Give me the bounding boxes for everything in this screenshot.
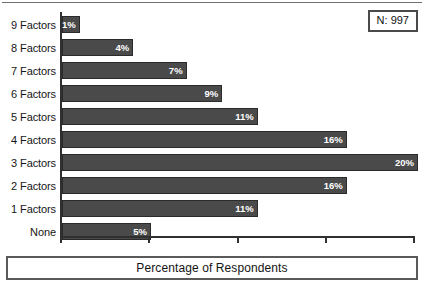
bar-row: 4 Factors16% (0, 129, 424, 151)
bar: 20% (62, 154, 418, 171)
x-axis-tick (60, 236, 62, 243)
bar-row: 8 Factors4% (0, 37, 424, 59)
bar-row: 5 Factors11% (0, 106, 424, 128)
category-label: None (0, 221, 56, 243)
x-axis-title-box: Percentage of Respondents (6, 256, 418, 280)
bar: 7% (62, 62, 187, 79)
bar-value-label: 11% (235, 204, 257, 214)
bar-value-label: 20% (395, 158, 417, 168)
bar: 16% (62, 177, 347, 194)
bar-track: 5% (62, 221, 418, 243)
bar-track: 16% (62, 129, 418, 151)
bar-track: 16% (62, 175, 418, 197)
bar-track: 4% (62, 37, 418, 59)
category-label: 3 Factors (0, 152, 56, 174)
category-label: 9 Factors (0, 14, 56, 36)
bar-value-label: 1% (62, 20, 79, 30)
bar-value-label: 5% (133, 227, 150, 237)
category-label: 1 Factors (0, 198, 56, 220)
bar-value-label: 4% (115, 43, 132, 53)
bar-track: 7% (62, 60, 418, 82)
x-axis-tick (148, 236, 150, 243)
bar-track: 9% (62, 83, 418, 105)
x-axis-tick (237, 236, 239, 243)
bar-row: 2 Factors16% (0, 175, 424, 197)
bar-row-list: 9 Factors1%8 Factors4%7 Factors7%6 Facto… (0, 14, 424, 244)
x-axis-title: Percentage of Respondents (136, 261, 287, 275)
category-label: 6 Factors (0, 83, 56, 105)
category-label: 7 Factors (0, 60, 56, 82)
bar: 4% (62, 39, 133, 56)
bar: 16% (62, 131, 347, 148)
bar-value-label: 16% (324, 135, 346, 145)
bar-row: 7 Factors7% (0, 60, 424, 82)
bar-value-label: 11% (235, 112, 257, 122)
category-label: 2 Factors (0, 175, 56, 197)
plot-area: 9 Factors1%8 Factors4%7 Factors7%6 Facto… (0, 8, 424, 240)
x-axis-tick (413, 236, 415, 243)
bar-row: 9 Factors1% (0, 14, 424, 36)
bar-row: 1 Factors11% (0, 198, 424, 220)
figure-top-rule (2, 2, 422, 3)
bar-value-label: 9% (204, 89, 221, 99)
bar: 11% (62, 108, 258, 125)
bar-row: None5% (0, 221, 424, 243)
bar: 9% (62, 85, 222, 102)
bar-row: 6 Factors9% (0, 83, 424, 105)
bar: 11% (62, 200, 258, 217)
bar-track: 1% (62, 14, 418, 36)
bar-chart: N: 997 9 Factors1%8 Factors4%7 Factors7%… (0, 0, 424, 286)
bar-value-label: 7% (169, 66, 186, 76)
category-label: 4 Factors (0, 129, 56, 151)
bar: 1% (62, 16, 80, 33)
x-axis-tick (325, 236, 327, 243)
bar-value-label: 16% (324, 181, 346, 191)
bar-track: 11% (62, 106, 418, 128)
bar-track: 20% (62, 152, 418, 174)
category-label: 8 Factors (0, 37, 56, 59)
category-label: 5 Factors (0, 106, 56, 128)
bar-row: 3 Factors20% (0, 152, 424, 174)
bar-track: 11% (62, 198, 418, 220)
